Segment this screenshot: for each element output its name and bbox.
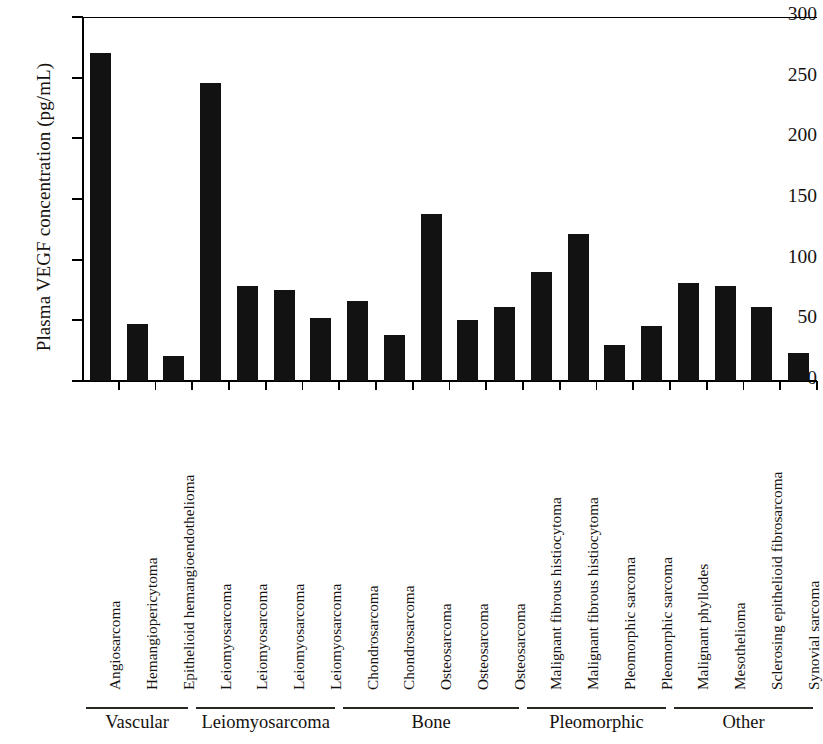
bar — [494, 307, 515, 381]
bar — [751, 307, 772, 381]
bar — [163, 356, 184, 381]
bar — [604, 345, 625, 381]
bar — [715, 286, 736, 381]
y-axis-title: Plasma VEGF concentration (pg/mL) — [33, 17, 55, 397]
bar — [274, 290, 295, 381]
category-label: Leiomyosarcoma — [217, 584, 235, 690]
x-tick — [118, 381, 120, 390]
category-label: Leiomyosarcoma — [327, 584, 345, 690]
category-label: Pleomorphic sarcoma — [658, 557, 676, 690]
bar — [347, 301, 368, 381]
bar — [90, 53, 111, 381]
group-label: Pleomorphic — [527, 712, 666, 733]
category-label: Epithelioid hemangioendothelioma — [180, 475, 198, 690]
x-tick — [779, 381, 781, 390]
category-label: Pleomorphic sarcoma — [621, 557, 639, 690]
bar — [641, 326, 662, 381]
x-tick — [338, 381, 340, 390]
category-label: Angiosarcoma — [106, 601, 124, 690]
x-tick — [669, 381, 671, 390]
x-tick — [191, 381, 193, 390]
group-rule — [196, 707, 335, 709]
category-label: Malignant phyllodes — [694, 564, 712, 690]
x-tick — [706, 381, 708, 390]
category-label: Mesothelioma — [731, 602, 749, 690]
x-tick — [816, 381, 818, 390]
bar — [200, 83, 221, 381]
group-label: Bone — [343, 712, 519, 733]
x-tick — [265, 381, 267, 390]
category-label: Malignant fibrous histiocytoma — [547, 497, 565, 690]
category-label: Osteosarcoma — [511, 603, 529, 690]
category-label: Chondrosarcoma — [364, 585, 382, 690]
group-rule — [674, 707, 813, 709]
category-label: Sclerosing epithelioid fibrosarcoma — [768, 472, 786, 690]
x-tick — [743, 381, 745, 390]
group-rule — [86, 707, 188, 709]
group-rule — [527, 707, 666, 709]
category-label: Malignant fibrous histiocytoma — [584, 497, 602, 690]
x-tick — [632, 381, 634, 390]
category-label: Leiomyosarcoma — [253, 584, 271, 690]
x-tick — [412, 381, 414, 390]
category-label: Osteosarcoma — [437, 603, 455, 690]
bar — [788, 353, 809, 381]
x-tick — [522, 381, 524, 390]
bar — [678, 283, 699, 381]
bar — [421, 214, 442, 381]
group-rule — [343, 707, 519, 709]
bar — [237, 286, 258, 381]
x-tick — [596, 381, 598, 390]
group-label: Leiomyosarcoma — [196, 712, 335, 733]
category-label: Osteosarcoma — [474, 603, 492, 690]
group-label: Vascular — [86, 712, 188, 733]
x-tick — [485, 381, 487, 390]
x-tick — [559, 381, 561, 390]
x-tick — [375, 381, 377, 390]
x-tick — [155, 381, 157, 390]
bar — [568, 234, 589, 381]
bar — [384, 335, 405, 381]
bar — [457, 320, 478, 381]
category-label: Leiomyosarcoma — [290, 584, 308, 690]
bar — [531, 272, 552, 381]
x-tick — [449, 381, 451, 390]
x-tick — [228, 381, 230, 390]
plot-frame — [82, 17, 817, 381]
x-tick — [302, 381, 304, 390]
bar — [310, 318, 331, 381]
category-label: Chondrosarcoma — [400, 585, 418, 690]
bar — [127, 324, 148, 381]
category-label: Synovial sarcoma — [805, 581, 823, 690]
category-label: Hemangiopericytoma — [143, 557, 161, 690]
group-label: Other — [674, 712, 813, 733]
